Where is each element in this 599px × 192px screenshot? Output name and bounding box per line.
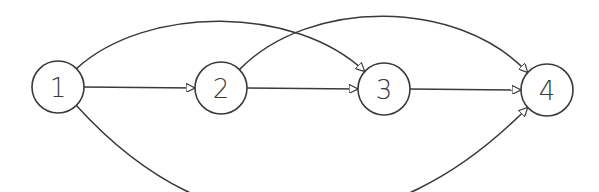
edge-1-to-2: [84, 87, 195, 88]
edge-2-to-3: [247, 88, 358, 89]
node-1: 1: [32, 61, 84, 113]
node-2: 2: [195, 62, 247, 114]
node-3: 3: [358, 63, 410, 115]
node-1-label: 1: [50, 73, 67, 103]
node-4: 4: [521, 64, 573, 116]
node-4-label: 4: [539, 76, 556, 106]
node-3-label: 3: [376, 75, 393, 105]
edge-3-to-4: [410, 89, 521, 90]
edge-1-to-4: [76, 105, 527, 192]
directed-graph: 1234: [0, 0, 599, 192]
node-2-label: 2: [213, 74, 230, 104]
